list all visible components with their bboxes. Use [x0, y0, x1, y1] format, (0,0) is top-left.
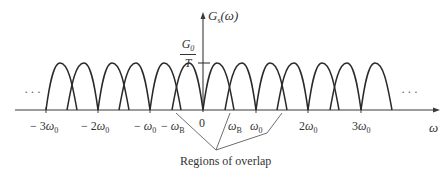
tick-label-minus-wB: − ωB [161, 120, 185, 135]
tick-label-zero: 0 [199, 117, 205, 129]
tick-label-minus-2w0: − 2ω0 [81, 120, 109, 135]
peak-numerator: G0 [182, 37, 195, 51]
tick-label-w0: ω0 [250, 120, 262, 135]
tick-label-minus-w0: − ω0 [134, 120, 156, 135]
tick-label-2w0: 2ω0 [299, 120, 317, 135]
peak-denominator: T [185, 56, 192, 70]
peak-level-label: G0 T [180, 37, 196, 71]
tick-label-minus-3w0: − 3ω0 [30, 120, 58, 135]
ellipsis-right: ··· [401, 84, 420, 100]
lobe [330, 63, 361, 110]
tick-label-wB: ωB [228, 120, 242, 135]
tick-label-3w0: 3ω0 [352, 120, 370, 135]
ellipsis-left: ··· [24, 84, 43, 100]
lobe [277, 63, 308, 110]
gs-axis-arrow-icon [201, 12, 206, 19]
x-axis-label: ω [429, 121, 438, 134]
lobe [225, 63, 256, 110]
omega-axis-arrow-icon [433, 108, 440, 113]
spectrum-lobes [46, 63, 392, 110]
y-axis-label-arg: (ω) [221, 8, 239, 23]
spectrum-diagram [0, 0, 447, 175]
overlap-annotation: Regions of overlap [180, 155, 271, 167]
y-axis-label: Gs(ω) [208, 9, 238, 25]
lobe [361, 63, 392, 110]
fraction-bar [180, 54, 196, 55]
lobe [119, 63, 150, 110]
y-axis-label-main: G [208, 8, 217, 23]
lobe [67, 63, 98, 110]
